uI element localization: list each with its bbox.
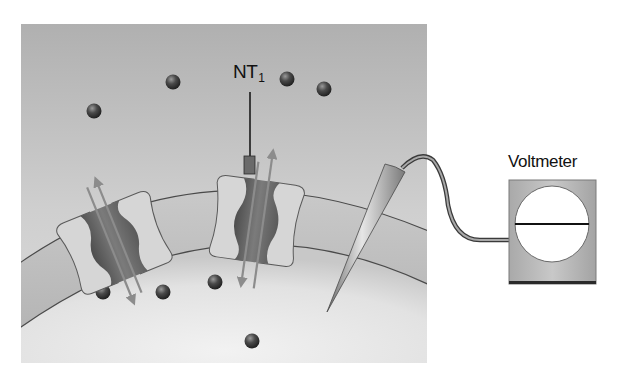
voltmeter-base — [509, 281, 596, 284]
nt1-label: NT1 — [233, 61, 265, 85]
voltmeter-label: Voltmeter — [508, 152, 577, 172]
ion — [166, 75, 181, 90]
extracellular-panel — [10, 24, 440, 370]
nt-label-text: NT — [233, 61, 257, 82]
ion — [280, 72, 295, 87]
ion — [245, 334, 260, 349]
nt-label-subscript: 1 — [258, 71, 264, 85]
membrane-ion-channel-diagram — [0, 0, 622, 382]
voltmeter — [509, 180, 596, 284]
ion — [87, 104, 102, 119]
ion — [317, 82, 332, 97]
ion — [208, 275, 223, 290]
ion — [156, 285, 171, 300]
nt1-ligand — [244, 156, 255, 174]
